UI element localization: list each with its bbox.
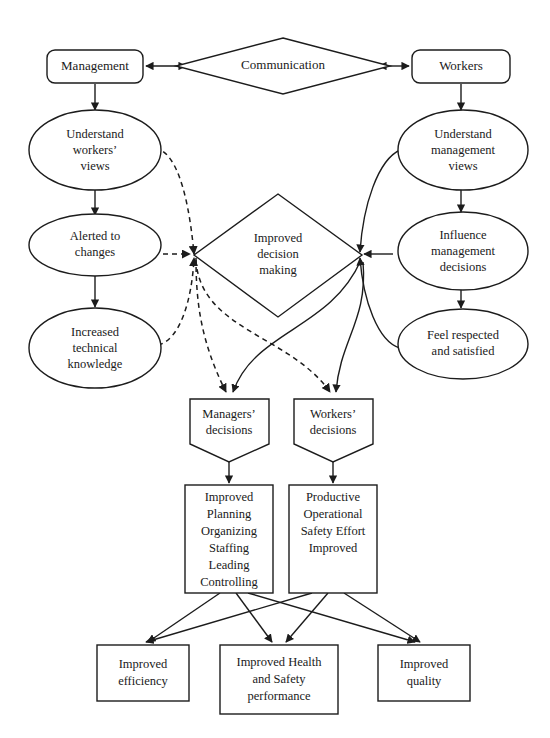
management-functions-line-1: Improved [205,490,254,504]
increased-technical-knowledge-line-1: Increased [71,325,120,339]
edge-functions-health-safety [236,593,272,642]
productive-operational-safety-line-3: Safety Effort [301,524,366,538]
improved-health-safety-line-2: and Safety [252,672,306,686]
node-management-functions[interactable]: Improved Planning Organizing Staffing Le… [185,485,273,593]
understand-management-views-line-2: management [431,143,495,157]
understand-workers-views-line-3: views [80,159,109,173]
edge-productive-efficiency [146,593,312,642]
node-management[interactable]: Management [47,50,143,83]
edge-feel-respected-decision [360,258,400,348]
node-workers-decisions[interactable]: Workers’ decisions [294,399,373,462]
node-influence-management-decisions[interactable]: Influence management decisions [398,212,528,290]
node-understand-management-views[interactable]: Understand management views [398,110,528,190]
node-communication[interactable]: Communication [176,38,390,94]
increased-technical-knowledge-line-3: knowledge [68,357,123,371]
alerted-to-changes-line-1: Alerted to [70,229,120,243]
workers-decisions-line-1: Workers’ [310,407,356,421]
node-understand-workers-views[interactable]: Understand workers’ views [29,110,161,190]
communication-label: Communication [241,57,325,72]
edge-dashed-understand-views-decision [155,148,194,254]
management-functions-line-5: Leading [209,558,251,572]
node-improved-decision-making[interactable]: Improved decision making [194,194,362,317]
understand-management-views-line-1: Understand [434,127,492,141]
node-productive-operational-safety[interactable]: Productive Operational Safety Effort Imp… [289,485,377,593]
edge-dashed-knowledge-decision [158,258,194,345]
workers-label: Workers [439,58,483,73]
edge-understand-mgmt-decision [360,150,400,252]
feel-respected-line-2: and satisfied [432,344,496,358]
node-workers[interactable]: Workers [412,50,510,83]
improved-decision-making-line-3: making [259,263,297,277]
management-functions-line-4: Staffing [209,541,250,555]
edge-functions-quality [248,593,415,642]
management-functions-line-2: Planning [207,507,252,521]
managers-decisions-line-2: decisions [206,423,253,437]
node-managers-decisions[interactable]: Managers’ decisions [190,399,269,462]
productive-operational-safety-line-1: Productive [306,490,361,504]
edge-productive-health-safety [286,593,328,642]
understand-workers-views-line-1: Understand [66,127,124,141]
increased-technical-knowledge-line-2: technical [72,341,118,355]
productive-operational-safety-line-2: Operational [303,507,363,521]
management-functions-line-3: Organizing [201,524,258,538]
node-improved-efficiency[interactable]: Improved efficiency [97,645,189,701]
improved-decision-making-line-1: Improved [254,231,303,245]
node-alerted-to-changes[interactable]: Alerted to changes [29,214,161,276]
productive-operational-safety-line-4: Improved [309,541,358,555]
flowchart-canvas: Management Communication Workers Underst… [0,0,550,738]
node-improved-quality[interactable]: Improved quality [378,645,470,701]
edge-functions-efficiency [148,593,220,642]
node-improved-health-safety[interactable]: Improved Health and Safety performance [220,645,338,714]
improved-health-safety-line-3: performance [247,689,311,703]
improved-decision-making-line-2: decision [257,247,299,261]
node-feel-respected-and-satisfied[interactable]: Feel respected and satisfied [398,309,528,379]
influence-management-decisions-line-1: Influence [439,228,487,242]
node-increased-technical-knowledge[interactable]: Increased technical knowledge [29,308,161,388]
understand-workers-views-line-2: workers’ [73,143,117,157]
management-label: Management [61,58,129,73]
influence-management-decisions-line-3: decisions [440,260,487,274]
edge-productive-quality [344,593,420,642]
alerted-to-changes-line-2: changes [75,245,115,259]
flowchart-diagram: Management Communication Workers Underst… [0,0,550,738]
understand-management-views-line-3: views [448,159,477,173]
improved-efficiency-line-1: Improved [119,657,168,671]
improved-quality-line-2: quality [407,674,442,688]
edge-decision-workers [336,262,364,392]
managers-decisions-line-1: Managers’ [202,407,255,421]
workers-decisions-line-2: decisions [310,423,357,437]
edge-dashed-decision-managers [196,258,226,392]
improved-quality-line-1: Improved [400,657,449,671]
improved-health-safety-line-1: Improved Health [236,655,322,669]
feel-respected-line-1: Feel respected [427,328,500,342]
influence-management-decisions-line-2: management [431,244,495,258]
improved-efficiency-line-2: efficiency [118,674,168,688]
management-functions-line-6: Controlling [200,575,258,589]
